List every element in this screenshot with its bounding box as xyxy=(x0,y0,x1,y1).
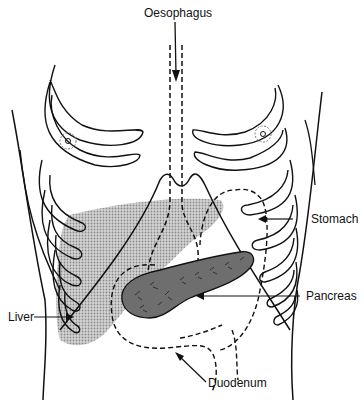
anatomy-diagram: Oesophagus Stomach Pancreas Liver Duoden… xyxy=(0,0,364,403)
body-outline-right xyxy=(292,92,322,400)
label-liver: Liver xyxy=(8,310,34,324)
diagram-drawing xyxy=(0,0,364,403)
label-duodenum: Duodenum xyxy=(208,376,267,390)
duodenum-leader xyxy=(178,355,206,382)
label-pancreas: Pancreas xyxy=(306,289,357,303)
label-oesophagus: Oesophagus xyxy=(144,6,212,20)
body-outline-left xyxy=(12,110,46,400)
right-nipple-icon xyxy=(255,126,271,142)
label-stomach: Stomach xyxy=(311,212,358,226)
